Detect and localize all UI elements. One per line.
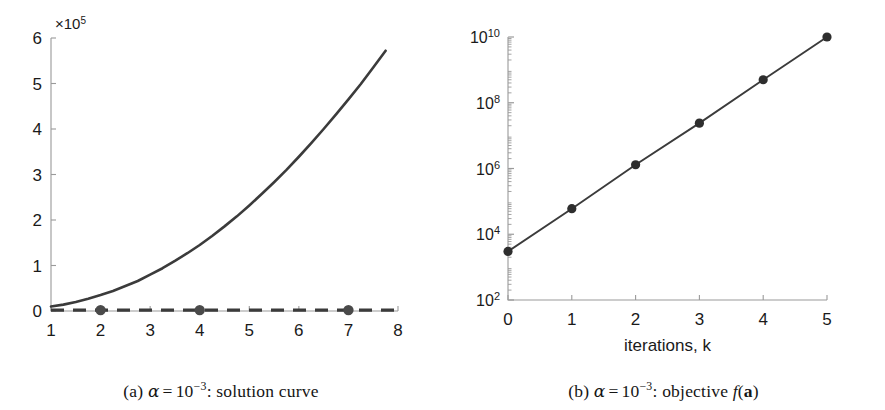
y-tick-label: 3 (33, 166, 42, 185)
x-tick-label: 0 (503, 310, 512, 329)
caption-description: objective (662, 381, 728, 401)
y-tick-label: 2 (33, 211, 42, 230)
caption-equals: = (608, 381, 618, 401)
baseline-marker (343, 305, 353, 315)
y-tick-label: 4 (33, 120, 42, 139)
baseline-marker (95, 305, 105, 315)
objective-data-point (503, 247, 512, 256)
x-tick-label: 4 (195, 321, 204, 340)
y-axis-multiplier-label: ×105 (55, 15, 86, 33)
x-tick-label: 2 (631, 310, 640, 329)
caption-base: 10 (176, 381, 194, 401)
x-tick-label: 4 (758, 310, 767, 329)
panel-b-objective: 1021041061081010012345iterations, k (b) … (442, 0, 885, 410)
caption-paren-close: ) (753, 381, 759, 401)
caption-index: (b) (568, 381, 589, 401)
y-tick-label: 6 (33, 29, 42, 48)
caption-index: (a) (123, 381, 143, 401)
figure-root: 012345612345678×105 (a) α=10−3: solution… (0, 0, 885, 410)
panel-a-solution-curve: 012345612345678×105 (a) α=10−3: solution… (0, 0, 442, 410)
caption-colon: : (653, 381, 658, 401)
x-tick-label: 5 (822, 310, 831, 329)
x-tick-label: 1 (567, 310, 576, 329)
caption-alpha-symbol: α (148, 381, 160, 401)
caption-base: 10 (622, 381, 640, 401)
objective-line (508, 37, 827, 251)
panel-b-caption: (b) α=10−3: objective f(a) (442, 381, 885, 402)
x-tick-label: 5 (245, 321, 254, 340)
y-tick-label: 0 (33, 302, 42, 321)
y-tick-label: 1010 (470, 27, 500, 46)
objective-data-point (567, 204, 576, 213)
caption-alpha-symbol: α (594, 381, 606, 401)
caption-exponent: −3 (639, 379, 652, 393)
x-tick-label: 2 (96, 321, 105, 340)
solution-curve-line (51, 51, 386, 307)
caption-colon: : (207, 381, 212, 401)
y-tick-label: 108 (476, 93, 500, 112)
x-tick-label: 8 (393, 321, 402, 340)
caption-vector-a: a (744, 381, 753, 401)
x-tick-label: 6 (294, 321, 303, 340)
caption-exponent: −3 (194, 379, 207, 393)
y-tick-label: 102 (476, 290, 500, 309)
y-tick-label: 104 (476, 224, 500, 243)
objective-data-point (759, 75, 768, 84)
baseline-marker (195, 305, 205, 315)
y-tick-label: 106 (476, 159, 500, 178)
caption-description: solution curve (216, 381, 318, 401)
axis-frame (51, 38, 398, 311)
y-tick-label: 1 (33, 257, 42, 276)
x-axis-title: iterations, k (624, 336, 711, 355)
x-tick-label: 1 (46, 321, 55, 340)
objective-data-point (822, 32, 831, 41)
caption-equals: = (163, 381, 173, 401)
y-tick-label: 5 (33, 75, 42, 94)
panel-a-plot: 012345612345678×105 (0, 0, 442, 355)
x-tick-label: 3 (145, 321, 154, 340)
x-tick-label: 7 (344, 321, 353, 340)
axis-frame (508, 37, 827, 300)
objective-data-point (695, 119, 704, 128)
panel-b-plot: 1021041061081010012345iterations, k (442, 0, 885, 355)
objective-data-point (631, 160, 640, 169)
panel-a-caption: (a) α=10−3: solution curve (0, 381, 442, 402)
x-tick-label: 3 (695, 310, 704, 329)
